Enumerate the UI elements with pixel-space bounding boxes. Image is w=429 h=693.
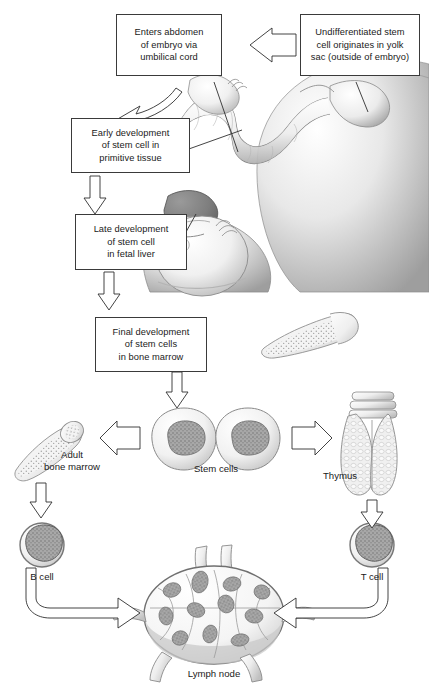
- arrow-yolk-to-abdomen: [250, 28, 296, 62]
- label-lymph-node: Lymph node: [164, 668, 264, 680]
- arrow-late-to-final: [98, 272, 120, 310]
- label-thymus: Thymus: [294, 470, 386, 482]
- connector-layer: [0, 0, 429, 693]
- figure-canvas: Enters abdomen of embryo via umbilical c…: [0, 0, 429, 693]
- leader-fetal-liver: [186, 214, 196, 232]
- label-b-cell: B cell: [0, 571, 84, 583]
- label-stem-cells: Stem cells: [166, 463, 266, 475]
- leader-umbilical-cord: [214, 82, 238, 152]
- leader-yolk-sac: [356, 82, 368, 112]
- arrow-stemcells-to-thymus: [292, 421, 332, 455]
- arrow-thymus-to-tcell: [361, 500, 383, 528]
- label-t-cell: T cell: [330, 571, 414, 583]
- arrow-final-to-stemcells: [166, 372, 188, 408]
- callout-early-development: Early development of stem cell in primit…: [71, 118, 190, 173]
- callout-undifferentiated-stem-cell: Undifferentiated stem cell originates in…: [300, 14, 420, 76]
- callout-final-development: Final development of stem cells in bone …: [95, 317, 207, 372]
- label-adult-bone-marrow: Adult bone marrow: [22, 449, 122, 472]
- arrow-bonemarrow-to-bcell: [30, 483, 52, 518]
- callout-late-development: Late development of stem cell in fetal l…: [75, 214, 187, 270]
- arrow-early-to-late: [84, 176, 106, 214]
- callout-enters-abdomen: Enters abdomen of embryo via umbilical c…: [116, 14, 222, 76]
